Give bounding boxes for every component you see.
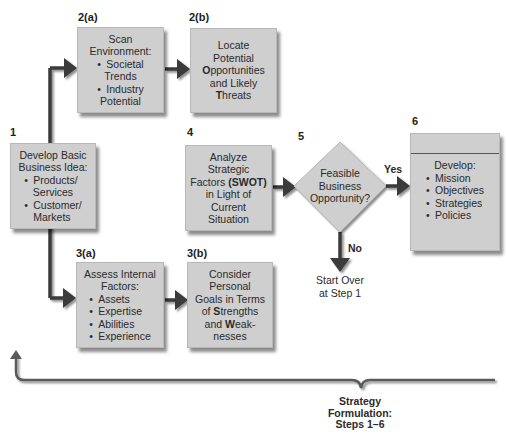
- step-2b-box: Locate Potential Opportunities and Likel…: [190, 28, 277, 113]
- step-3b-line: Personal: [209, 280, 250, 293]
- list-item: Expertise: [89, 305, 151, 318]
- step-6-number: 6: [412, 115, 418, 127]
- step-3b-box: Consider Personal Goals in Terms of Stre…: [187, 262, 273, 348]
- step-2b-line: and Likely: [210, 77, 257, 90]
- step-2a-list: Societal Trends Industry Potential: [97, 58, 143, 108]
- step-5-question: Feasible Business Opportunity?: [295, 167, 385, 205]
- weaknesses-initial: W: [225, 318, 235, 330]
- yes-label: Yes: [384, 163, 402, 176]
- step-2b-line: Locate: [218, 39, 250, 52]
- step-2b-number: 2(b): [189, 11, 209, 23]
- weaknesses-rest: eak-: [235, 318, 255, 330]
- step-2b-threats: Threats: [216, 89, 252, 102]
- step-3b-strengths: of Strengths: [202, 305, 259, 318]
- question-line: Business: [295, 180, 385, 193]
- step-6-box: Develop: Mission Objectives Strategies P…: [410, 133, 500, 251]
- list-item: Strategies: [426, 197, 484, 210]
- list-item: Abilities: [89, 318, 151, 331]
- footer-line3: Steps 1–6: [320, 419, 400, 431]
- strategy-formulation-label: Strategy Formulation: Steps 1–6: [320, 396, 400, 431]
- start-over-line1: Start Over: [300, 274, 380, 287]
- step-1-title-line1: Develop Basic: [19, 149, 86, 162]
- list-item: Objectives: [426, 184, 484, 197]
- step-3a-box: Assess Internal Factors: Assets Expertis…: [76, 262, 164, 348]
- step-6-divider: [411, 153, 499, 154]
- strengths-prefix: of: [202, 305, 214, 317]
- step-4-box: Analyze Strategic Factors (SWOT) in Ligh…: [185, 145, 272, 231]
- threats-rest: hreats: [222, 89, 251, 101]
- list-item: Services: [24, 186, 81, 199]
- strengths-rest: trengths: [220, 305, 258, 317]
- return-brace: [16, 356, 495, 388]
- step-2a-box: Scan Environment: Societal Trends Indust…: [77, 27, 164, 113]
- list-item: Experience: [89, 330, 151, 343]
- step-3b-line: nesses: [213, 330, 246, 343]
- list-item: Potential: [97, 95, 143, 108]
- step-4-line: Analyze: [210, 151, 247, 164]
- step-1-title-line2: Business Idea:: [19, 161, 88, 174]
- no-label: No: [348, 242, 362, 255]
- step-2a-title-line2: Environment:: [90, 45, 152, 58]
- list-item: Assets: [89, 293, 151, 306]
- question-line: Feasible: [295, 167, 385, 180]
- list-item: Trends: [97, 70, 143, 83]
- step-1-list: Products/ Services Customer/ Markets: [24, 174, 81, 224]
- step-1-box: Develop Basic Business Idea: Products/ S…: [10, 143, 96, 229]
- step-2b-opportunities: Opportunities: [202, 64, 264, 77]
- opportunities-rest: pportunities: [210, 64, 264, 76]
- step-3b-line: Consider: [209, 268, 251, 281]
- question-line: Opportunity?: [295, 192, 385, 205]
- list-item: Mission: [426, 172, 484, 185]
- footer-line1: Strategy: [320, 396, 400, 408]
- step-3a-title-line2: Factors:: [101, 280, 139, 293]
- step-5-number: 5: [298, 130, 304, 142]
- step-2a-number: 2(a): [78, 11, 98, 23]
- step-4-factors: Factors (SWOT): [190, 176, 266, 189]
- list-item: Policies: [426, 209, 484, 222]
- start-over-label: Start Over at Step 1: [300, 274, 380, 299]
- step-3a-number: 3(a): [76, 247, 96, 259]
- step-3b-number: 3(b): [187, 247, 207, 259]
- step-3a-list: Assets Expertise Abilities Experience: [89, 293, 151, 343]
- step-2a-title-line1: Scan: [109, 33, 133, 46]
- step-4-line: Strategic: [208, 163, 249, 176]
- step-2b-line: Potential: [213, 52, 254, 65]
- step-6-list: Mission Objectives Strategies Policies: [426, 172, 484, 222]
- step-4-line: in Light of: [206, 188, 252, 201]
- start-over-line2: at Step 1: [300, 287, 380, 300]
- step-4-number: 4: [187, 126, 193, 138]
- step-3b-weaknesses: and Weak-: [205, 318, 256, 331]
- arrowhead-to-2a: [64, 58, 77, 78]
- step-4-line: Current: [211, 201, 246, 214]
- swot-label: (SWOT): [228, 176, 267, 188]
- step-3a-title-line1: Assess Internal: [84, 268, 156, 281]
- step-6-title: Develop:: [434, 159, 475, 172]
- step-4-line: Situation: [208, 213, 249, 226]
- return-arrowhead: [10, 350, 22, 359]
- factors-label: Factors: [190, 176, 228, 188]
- step-3b-line: Goals in Terms: [195, 293, 265, 306]
- list-item: Customer/: [24, 199, 81, 212]
- list-item: Societal: [97, 58, 143, 71]
- list-item: Products/: [24, 174, 81, 187]
- weaknesses-prefix: and: [205, 318, 225, 330]
- step-1-number: 1: [10, 126, 16, 138]
- list-item: Industry: [97, 83, 143, 96]
- list-item: Markets: [24, 211, 81, 224]
